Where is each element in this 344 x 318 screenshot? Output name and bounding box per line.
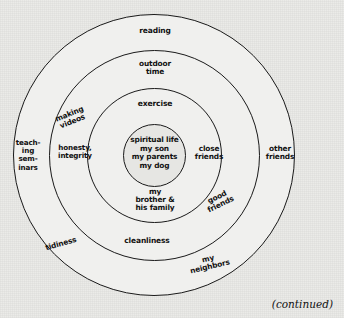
label-reading: reading — [112, 27, 198, 35]
label-teaching-seminars: teach- ing sem- inars — [8, 139, 48, 172]
continued-note: (continued) — [272, 298, 333, 310]
concentric-circles-diagram: reading teach- ing sem- inars other frie… — [0, 0, 344, 318]
label-exercise: exercise — [112, 100, 198, 108]
label-brother-his-family: my brother & his family — [112, 188, 198, 212]
label-other-friends: other friends — [258, 145, 302, 161]
label-outdoor-time: outdoor time — [112, 60, 198, 76]
label-core-values: spiritual life my son my parents my dog — [112, 136, 197, 170]
label-cleanliness: cleanliness — [104, 237, 190, 245]
label-honesty-integrity: honesty, integrity — [52, 144, 98, 159]
